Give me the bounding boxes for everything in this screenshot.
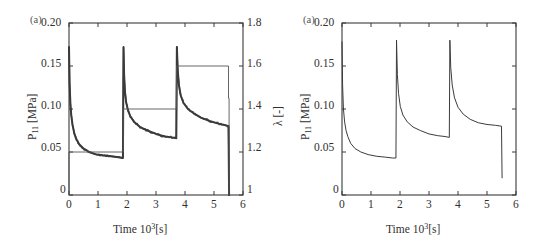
x-axis-title: Time 103[s]	[113, 222, 167, 235]
x-axis-tick-label: 6	[513, 198, 519, 210]
x-axis-tick-label: 6	[240, 198, 246, 210]
y-axis-tick-label: 0	[60, 183, 66, 195]
x-axis-title-unit: [s]	[155, 223, 167, 235]
x-axis-tick-label: 5	[211, 198, 217, 210]
y-axis-title-unit: [MPa]	[299, 94, 311, 126]
y-axis-tick-label: 0.10	[41, 99, 61, 111]
x-axis-title-main: Time 10	[113, 223, 151, 235]
panel-tag-right: (a)	[303, 14, 315, 25]
y2-axis-tick-label: 1.6	[247, 57, 261, 69]
y-axis-title-symbol: P	[26, 134, 38, 140]
y-axis-title-symbol: P	[299, 134, 311, 140]
panel-tag-left: (a)	[30, 14, 42, 25]
x-axis-tick-label: 3	[426, 198, 432, 210]
y-axis-title-subscript: 11	[31, 126, 40, 134]
y-axis-title-subscript: 11	[304, 126, 313, 134]
y-axis-title-left: P11 [MPa]	[26, 94, 40, 140]
y2-axis-tick-label: 1.4	[247, 99, 261, 111]
x-axis-tick-label: 0	[339, 198, 345, 210]
y-axis-tick-label: 0.05	[41, 141, 61, 153]
y-axis-title-left: P11 [MPa]	[299, 94, 313, 140]
y2-axis-tick-label: 1.8	[247, 16, 261, 28]
x-axis-tick-label: 3	[153, 198, 159, 210]
chart-panel-right: (a) 0.20 0.15 0.10 0.05 0 0 1 2 3 4 5 6 …	[277, 0, 557, 252]
y-axis-tick-label: 0.10	[314, 99, 334, 111]
y-axis-tick-label: 0.05	[314, 141, 334, 153]
y-axis-tick-label: 0.20	[41, 16, 61, 28]
series-experimental	[69, 47, 229, 195]
x-axis-tick-label: 4	[182, 198, 188, 210]
x-axis-tick-label: 2	[124, 198, 130, 210]
y2-axis-tick-label: 1.2	[247, 141, 261, 153]
plot-area-right	[277, 0, 557, 252]
plot-frame	[342, 23, 516, 195]
y-axis-title-unit: [MPa]	[26, 94, 38, 126]
figure-root: (a) 0.20 0.15 0.10 0.05 0 1.8 1.6 1.4 1.…	[0, 0, 557, 252]
x-axis-tick-label: 1	[95, 198, 101, 210]
chart-panel-left: (a) 0.20 0.15 0.10 0.05 0 1.8 1.6 1.4 1.…	[0, 0, 280, 252]
series-model	[342, 40, 502, 178]
x-axis-tick-label: 4	[455, 198, 461, 210]
x-axis-tick-label: 0	[66, 198, 72, 210]
plot-area-left	[0, 0, 280, 252]
plot-content	[69, 23, 243, 196]
y-axis-tick-label: 0.15	[314, 57, 334, 69]
x-axis-tick-label: 1	[368, 198, 374, 210]
y-axis-tick-label: 0.20	[314, 16, 334, 28]
x-axis-title-unit: [s]	[428, 223, 440, 235]
x-axis-tick-label: 2	[397, 198, 403, 210]
y-axis-tick-label: 0.15	[41, 57, 61, 69]
plot-content	[342, 23, 516, 195]
y2-axis-tick-label: 1	[247, 183, 253, 195]
y-axis-tick-label: 0	[333, 183, 339, 195]
series-experimental-noise	[69, 46, 229, 196]
x-axis-title-main: Time 10	[386, 223, 424, 235]
x-axis-tick-label: 5	[484, 198, 490, 210]
x-axis-title: Time 103[s]	[386, 222, 440, 235]
